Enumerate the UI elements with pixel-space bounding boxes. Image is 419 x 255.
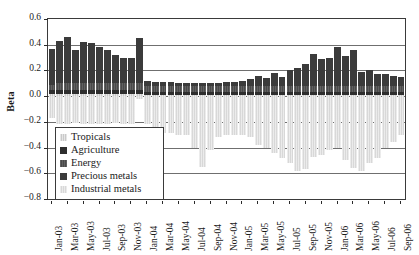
x-tick-mark xyxy=(305,201,306,204)
bar-column xyxy=(366,19,373,199)
legend-item: Tropicals xyxy=(60,131,159,144)
bar-column xyxy=(302,19,309,199)
bar-segment xyxy=(49,85,56,90)
x-tick-mark xyxy=(83,201,84,204)
x-tick-label: May-06 xyxy=(372,221,382,251)
bar-segment xyxy=(350,92,357,95)
bar-segment xyxy=(239,96,246,135)
bar-segment xyxy=(350,86,357,92)
bar-segment xyxy=(88,43,95,83)
y-tick-label: −0.2 xyxy=(24,116,41,126)
bar-segment xyxy=(112,55,119,83)
bar-segment xyxy=(310,92,317,95)
bar-segment xyxy=(96,96,103,124)
bar-column xyxy=(287,19,294,199)
bar-column xyxy=(358,19,365,199)
x-tick-mark xyxy=(400,201,401,204)
x-tick-mark xyxy=(51,201,52,204)
bar-segment xyxy=(72,50,79,83)
bar-segment xyxy=(191,83,198,86)
bar-segment xyxy=(191,96,198,147)
bar-segment xyxy=(175,83,182,86)
bar-segment xyxy=(112,96,119,123)
x-tick-label: Jan-06 xyxy=(341,226,351,251)
bar-segment xyxy=(287,86,294,92)
bar-segment xyxy=(136,96,143,99)
x-tick-mark xyxy=(368,201,369,204)
bar-segment xyxy=(120,96,127,124)
bar-segment xyxy=(263,78,270,86)
bar-segment xyxy=(215,96,222,137)
bar-segment xyxy=(318,96,325,155)
bar-column xyxy=(279,19,286,199)
bar-segment xyxy=(287,92,294,95)
bar-segment xyxy=(49,96,56,118)
bar-column xyxy=(215,19,222,199)
bar-segment xyxy=(88,90,95,94)
bar-segment xyxy=(350,96,357,168)
bar-segment xyxy=(318,86,325,92)
x-tick-label: Sep-04 xyxy=(214,224,224,251)
bar-segment xyxy=(302,92,309,95)
bar-segment xyxy=(390,86,397,92)
x-tick-label: Sep-03 xyxy=(118,224,128,251)
bar-segment xyxy=(247,92,254,95)
bar-column xyxy=(263,19,270,199)
y-axis-title: Beta xyxy=(5,72,16,132)
bar-column xyxy=(374,19,381,199)
bar-segment xyxy=(152,92,159,95)
bar-segment xyxy=(294,96,301,171)
bar-segment xyxy=(334,96,341,147)
bar-segment xyxy=(96,90,103,94)
bar-segment xyxy=(64,96,71,124)
bar-segment xyxy=(271,96,278,153)
bar-segment xyxy=(120,90,127,94)
bar-segment xyxy=(326,58,333,86)
bar-segment xyxy=(152,86,159,92)
bar-segment xyxy=(215,92,222,95)
bar-segment xyxy=(80,42,87,83)
legend-label: Energy xyxy=(71,158,101,169)
bar-segment xyxy=(398,77,405,86)
bar-segment xyxy=(279,92,286,95)
bar-column xyxy=(191,19,198,199)
y-tick-label: −0.6 xyxy=(24,168,41,178)
bar-segment xyxy=(160,92,167,95)
bar-column xyxy=(223,19,230,199)
bar-segment xyxy=(136,90,143,94)
x-tick-label: May-05 xyxy=(277,221,287,251)
legend-item: Energy xyxy=(60,157,159,170)
bar-segment xyxy=(80,96,87,124)
bar-segment xyxy=(175,92,182,95)
bar-segment xyxy=(255,86,262,92)
bar-column xyxy=(207,19,214,199)
bar-segment xyxy=(207,92,214,95)
bar-segment xyxy=(183,92,190,95)
bar-segment xyxy=(72,83,79,89)
bar-segment xyxy=(175,86,182,92)
bar-segment xyxy=(223,82,230,86)
bar-segment xyxy=(231,86,238,92)
legend-swatch-icon xyxy=(60,160,67,167)
bar-segment xyxy=(334,92,341,95)
bar-segment xyxy=(215,83,222,86)
bar-segment xyxy=(302,64,309,86)
x-tick-mark xyxy=(194,201,195,204)
bar-segment xyxy=(64,37,71,83)
bar-segment xyxy=(239,81,246,86)
bar-segment xyxy=(128,58,135,84)
x-tick-mark xyxy=(384,201,385,204)
bar-column xyxy=(326,19,333,199)
bar-segment xyxy=(350,50,357,86)
bar-segment xyxy=(120,83,127,89)
bar-column xyxy=(199,19,206,199)
bar-segment xyxy=(168,92,175,95)
bar-segment xyxy=(207,96,214,150)
bar-segment xyxy=(342,96,349,160)
x-tick-mark xyxy=(241,201,242,204)
bar-segment xyxy=(72,90,79,94)
bar-segment xyxy=(398,86,405,92)
bar-segment xyxy=(334,47,341,86)
chart-legend: TropicalsAgricultureEnergyPrecious metal… xyxy=(55,127,164,200)
bar-segment xyxy=(112,83,119,89)
